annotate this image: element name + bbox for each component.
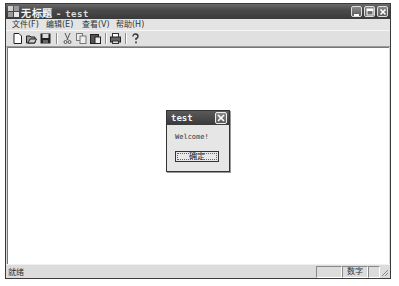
help-icon[interactable] xyxy=(130,33,141,44)
minimize-button[interactable] xyxy=(351,6,362,17)
status-ready: 就绪 xyxy=(8,266,24,277)
copy-icon[interactable] xyxy=(76,33,87,44)
menu-file[interactable]: 文件(F) xyxy=(12,19,39,30)
app-icon xyxy=(8,6,19,17)
maximize-icon xyxy=(365,7,376,18)
status-pane-caps xyxy=(316,266,342,278)
title-separator: - xyxy=(57,8,62,19)
new-icon[interactable] xyxy=(12,33,23,44)
open-icon[interactable] xyxy=(26,33,37,44)
print-icon[interactable] xyxy=(110,33,121,44)
save-icon[interactable] xyxy=(40,33,51,44)
ok-button[interactable]: 确定 xyxy=(175,151,219,162)
title-bar[interactable]: 无标题-test xyxy=(6,4,390,19)
message-dialog: test Welcome! 确定 xyxy=(166,110,230,172)
dialog-close-button[interactable] xyxy=(215,112,227,124)
close-button[interactable] xyxy=(377,6,388,17)
toolbar-separator xyxy=(125,33,127,44)
menu-edit[interactable]: 编辑(E) xyxy=(46,19,73,30)
menu-bar: 文件(F) 编辑(E) 查看(V) 帮助(H) xyxy=(6,19,390,30)
menu-view[interactable]: 查看(V) xyxy=(82,19,110,30)
document-name: 无标题 xyxy=(21,8,53,19)
app-name: test xyxy=(65,9,89,19)
maximize-button[interactable] xyxy=(364,6,375,17)
toolbar xyxy=(6,30,390,47)
dialog-message: Welcome! xyxy=(175,133,209,141)
menu-help[interactable]: 帮助(H) xyxy=(116,19,144,30)
paste-icon[interactable] xyxy=(90,33,101,44)
dialog-title-bar[interactable]: test xyxy=(167,111,229,125)
close-icon xyxy=(378,7,389,18)
toolbar-separator xyxy=(56,33,58,44)
minimize-icon xyxy=(352,7,363,18)
window-title: 无标题-test xyxy=(21,5,89,20)
status-pane-num: 数字 xyxy=(342,266,368,278)
status-bar: 就绪 数字 xyxy=(6,264,390,278)
cut-icon[interactable] xyxy=(62,33,73,44)
close-icon xyxy=(216,113,226,123)
resize-grip-icon[interactable] xyxy=(380,268,389,277)
status-pane-scroll xyxy=(368,266,380,278)
toolbar-separator xyxy=(105,33,107,44)
dialog-title: test xyxy=(171,113,193,123)
